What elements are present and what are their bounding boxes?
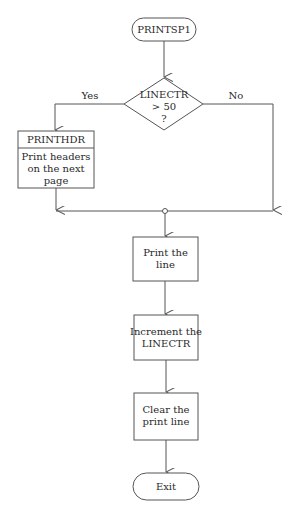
- increment-text-1: Increment the: [130, 326, 202, 337]
- printhdr-line-3: page: [44, 175, 69, 186]
- edge-no: [203, 104, 273, 210]
- junction-connector: [163, 209, 168, 214]
- start-label: PRINTSP1: [137, 24, 191, 35]
- printhdr-line-1: Print headers: [22, 151, 91, 162]
- printhdr-title: PRINTHDR: [27, 134, 85, 145]
- decision-line-2: > 50: [152, 101, 176, 112]
- clear-text-2: print line: [143, 416, 190, 427]
- printhdr-box: PRINTHDR Print headers on the next page: [18, 131, 94, 188]
- flowchart: PRINTSP1 LINECTR > 50 ? Yes No PRINTHDR …: [0, 0, 291, 515]
- print-line-box: Print the line: [133, 237, 198, 281]
- increment-text-2: LINECTR: [142, 338, 191, 349]
- edge-yes: [55, 104, 124, 130]
- start-terminator: PRINTSP1: [132, 18, 196, 41]
- yes-label: Yes: [81, 90, 99, 101]
- clear-text-1: Clear the: [142, 404, 189, 415]
- exit-label: Exit: [156, 481, 176, 492]
- decision-line-1: LINECTR: [140, 89, 189, 100]
- exit-terminator: Exit: [133, 473, 199, 500]
- decision-line-3: ?: [161, 113, 166, 124]
- print-line-text-2: line: [156, 259, 175, 270]
- printhdr-line-2: on the next: [27, 163, 84, 174]
- increment-box: Increment the LINECTR: [130, 315, 202, 360]
- print-line-text-1: Print the: [143, 247, 188, 258]
- clear-box: Clear the print line: [134, 393, 198, 440]
- no-label: No: [229, 90, 244, 101]
- decision-diamond: LINECTR > 50 ?: [124, 78, 203, 130]
